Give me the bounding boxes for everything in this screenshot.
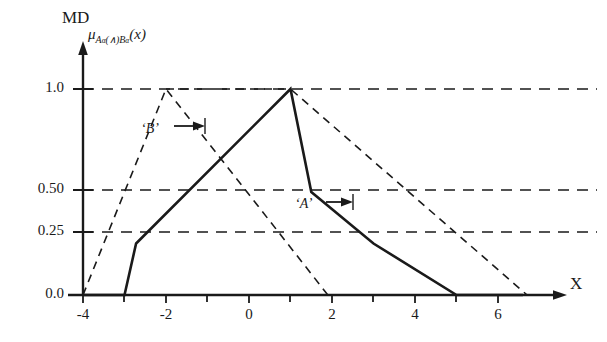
annotation-label-b: ‘B’ xyxy=(141,121,159,137)
x-tick-label-6: 6 xyxy=(483,306,513,323)
membership-function-label: μAα(∧)Bα(x) xyxy=(88,26,146,45)
x-tick-label--4: -4 xyxy=(68,306,98,323)
y-tick-label-0.0: 0.0 xyxy=(12,285,64,302)
x-tick-label-0: 0 xyxy=(234,306,264,323)
mu-sub-operator: (∧) xyxy=(106,34,120,45)
annotation-label-a: ‘A’ xyxy=(295,196,312,212)
y-tick-label-0.25: 0.25 xyxy=(12,222,64,239)
series-intersection xyxy=(83,89,523,295)
x-tick-marks xyxy=(83,295,498,303)
annotation-arrows xyxy=(174,118,353,210)
y-axis-title: MD xyxy=(62,8,89,28)
x-tick-label-4: 4 xyxy=(400,306,430,323)
x-tick-label-2: 2 xyxy=(317,306,347,323)
fuzzy-membership-chart xyxy=(0,0,607,342)
y-axis xyxy=(78,41,88,295)
mu-symbol: μ xyxy=(88,26,96,42)
y-tick-label-0.50: 0.50 xyxy=(12,180,64,197)
x-tick-label--2: -2 xyxy=(151,306,181,323)
gridlines xyxy=(83,89,597,232)
arrow-head-A xyxy=(341,197,353,206)
y-tick-label-1.0: 1.0 xyxy=(12,79,64,96)
mu-argument: (x) xyxy=(129,26,146,42)
series-A xyxy=(166,89,527,295)
x-axis-title: X xyxy=(570,274,582,294)
